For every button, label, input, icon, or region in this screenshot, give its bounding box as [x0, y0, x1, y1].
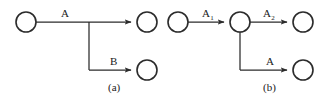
edge-label-a1: A1: [202, 8, 214, 22]
panel-a-source-node: [16, 12, 36, 32]
panel-b-caption: (b): [263, 82, 276, 93]
panel-b-top-target-node: [293, 12, 313, 32]
edge-label-a2-subscript: 2: [271, 14, 275, 22]
edge-label-a: A: [61, 8, 69, 19]
edge-label-a-lower: A: [266, 56, 274, 67]
panel-a-bottom-target-node: [137, 60, 157, 80]
panel-b-middle-node: [230, 12, 250, 32]
panel-b: A1 A2 A (b): [162, 0, 324, 99]
edge-label-a1-subscript: 1: [210, 14, 214, 22]
edge-label-b: B: [110, 56, 118, 67]
figure-root: A B (a) A1 A2 A: [0, 0, 324, 99]
edge-label-a2-base: A: [263, 7, 271, 19]
panel-a-top-target-node: [137, 12, 157, 32]
panel-b-bottom-target-node: [293, 60, 313, 80]
panel-a: A B (a): [0, 0, 162, 99]
edge-label-a2: A2: [263, 8, 275, 22]
panel-a-graphics: [0, 0, 162, 99]
edge-label-a1-base: A: [202, 7, 210, 19]
panel-a-caption: (a): [108, 82, 120, 93]
panel-b-graphics: [162, 0, 324, 99]
panel-b-source-node: [168, 12, 188, 32]
